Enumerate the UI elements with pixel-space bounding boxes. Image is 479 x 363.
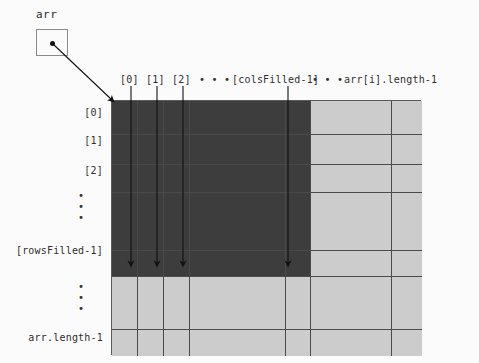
grid-cell xyxy=(138,165,164,193)
column-header-arrlen: arr[i].length-1 xyxy=(344,74,437,85)
grid-cell xyxy=(164,165,190,193)
grid-cell xyxy=(311,193,392,251)
grid-cell xyxy=(311,251,392,277)
grid-cell xyxy=(190,330,286,356)
pointer-variable-label: arr xyxy=(36,8,57,21)
ellipsis-dot: • xyxy=(75,201,87,212)
grid-cell xyxy=(138,277,164,330)
grid-cell xyxy=(164,277,190,330)
column-header-dots2: • • • xyxy=(312,74,343,85)
grid-cell xyxy=(311,330,392,356)
grid-cell xyxy=(138,193,164,251)
ellipsis-dot: • xyxy=(75,212,87,223)
grid-cell xyxy=(112,251,138,277)
grid-cell xyxy=(286,277,311,330)
grid-cell xyxy=(286,101,311,135)
grid-cell xyxy=(138,101,164,135)
grid-cell xyxy=(286,165,311,193)
row-ellipsis-dots-upper: ••• xyxy=(75,190,87,223)
grid-cell xyxy=(164,193,190,251)
column-header-c0: [0] xyxy=(120,74,139,85)
ellipsis-dot: • xyxy=(75,281,87,292)
grid-cell xyxy=(190,277,286,330)
grid-cell xyxy=(392,251,422,277)
grid-cell xyxy=(392,330,422,356)
grid-cell xyxy=(112,165,138,193)
column-header-colsfilled: [colsFilled-1] xyxy=(232,74,319,85)
grid-cell xyxy=(138,330,164,356)
grid-cell xyxy=(311,135,392,165)
column-header-c1: [1] xyxy=(146,74,165,85)
grid-cell xyxy=(112,330,138,356)
ellipsis-dot: • xyxy=(75,190,87,201)
pointer-dot-icon xyxy=(50,41,55,46)
row-header-r2: [2] xyxy=(0,165,103,176)
grid-cell xyxy=(112,135,138,165)
ellipsis-dot: • xyxy=(75,292,87,303)
grid-cell xyxy=(311,277,392,330)
grid-cell xyxy=(286,135,311,165)
ellipsis-dot: • xyxy=(75,303,87,314)
grid-cell xyxy=(392,101,422,135)
grid-cell xyxy=(112,277,138,330)
grid-cell xyxy=(138,251,164,277)
grid-cell xyxy=(286,330,311,356)
row-ellipsis-dots-lower: ••• xyxy=(75,281,87,314)
grid-cell xyxy=(190,135,286,165)
row-header-rarrlen: arr.length-1 xyxy=(0,332,103,343)
row-header-r1: [1] xyxy=(0,135,103,146)
grid-cell xyxy=(286,193,311,251)
grid-cell xyxy=(164,101,190,135)
grid-cell xyxy=(164,135,190,165)
row-header-rrowsfilled: [rowsFilled-1] xyxy=(0,245,103,256)
array-grid xyxy=(111,100,421,355)
array-diagram-canvas: arr [0][1][2]• • •[colsFilled-1]• • •arr… xyxy=(0,0,479,363)
column-header-dots1: • • • xyxy=(199,74,230,85)
grid-cell xyxy=(311,101,392,135)
grid-cell xyxy=(190,193,286,251)
grid-cell xyxy=(392,277,422,330)
grid-cell xyxy=(190,251,286,277)
grid-cell xyxy=(138,135,164,165)
grid-cell xyxy=(164,251,190,277)
grid-cell xyxy=(164,330,190,356)
grid-cell xyxy=(392,165,422,193)
row-header-r0: [0] xyxy=(0,107,103,118)
grid-cell xyxy=(190,165,286,193)
grid-cell xyxy=(392,193,422,251)
grid-cell xyxy=(392,135,422,165)
column-header-c2: [2] xyxy=(172,74,191,85)
grid-cell xyxy=(190,101,286,135)
grid-cell xyxy=(112,193,138,251)
grid-cell xyxy=(286,251,311,277)
grid-cell xyxy=(112,101,138,135)
grid-cell xyxy=(311,165,392,193)
